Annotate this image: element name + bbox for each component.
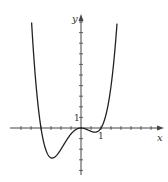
y-axis-arrow-icon bbox=[79, 14, 84, 21]
x-tick-label-1: 1 bbox=[98, 131, 104, 141]
y-axis bbox=[79, 14, 84, 175]
y-axis-label: y bbox=[71, 13, 78, 24]
function-graph: y x 1 1 bbox=[0, 0, 168, 182]
x-axis-label: x bbox=[157, 132, 163, 143]
x-axis-arrow-icon bbox=[157, 126, 164, 131]
function-curve bbox=[32, 23, 117, 159]
y-tick-label-1: 1 bbox=[74, 113, 80, 123]
